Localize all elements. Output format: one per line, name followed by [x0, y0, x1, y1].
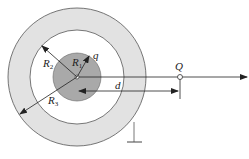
label-q-small: q: [93, 49, 99, 61]
label-Q: Q: [175, 60, 183, 72]
label-d: d: [115, 79, 121, 91]
physics-diagram: R1 R2 R3 q Q d: [0, 0, 249, 159]
point-charge-q: [178, 75, 183, 80]
